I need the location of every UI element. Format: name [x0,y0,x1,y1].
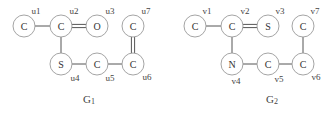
double-bond-u2-u3 [72,24,86,27]
node-v6: Cv6 [292,53,321,82]
node-u3: Ou3 [86,6,115,37]
node-u1: Cu1 [13,6,41,37]
double-bond-u6-u7 [131,37,134,53]
vertex-label: u6 [143,72,153,82]
vertex-label: v4 [232,76,242,86]
node-u2: Cu2 [50,6,79,37]
atom-symbol: C [265,59,272,70]
graph-title-G2: G2 [266,93,278,106]
node-u7: Cu7 [122,6,151,37]
atom-symbol: C [130,59,137,70]
atom-symbol: C [94,59,101,70]
vertex-label: u1 [32,6,41,16]
node-v5: Cv5 [257,53,284,84]
atom-symbol: C [192,21,199,32]
atom-symbol: C [130,21,137,32]
vertex-label: u5 [106,73,116,83]
vertex-label: v6 [312,72,322,82]
vertex-label: v3 [276,6,286,16]
double-bond-v2-v3 [243,24,257,27]
nodes-layer: Cu1Cu2Ou3Su4Cu5Cu6Cu7Cv1Cv2Sv3Nv4Cv5Cv6C… [13,6,321,86]
graph-title-subscript: 2 [274,97,278,106]
graph-title-letter: G [83,93,91,105]
vertex-label: u3 [106,6,116,16]
node-v4: Nv4 [221,53,243,86]
vertex-label: v5 [275,74,285,84]
node-v1: Cv1 [184,6,212,37]
node-v7: Cv7 [292,6,320,37]
vertex-label: v1 [203,6,212,16]
atom-symbol: S [265,21,271,32]
atom-symbol: C [300,59,307,70]
atom-symbol: C [300,21,307,32]
vertex-label: u7 [142,6,152,16]
node-v3: Sv3 [257,6,285,37]
graph-title-subscript: 1 [91,97,95,106]
vertex-label: v7 [311,6,321,16]
node-u5: Cu5 [86,53,115,83]
vertex-label: v2 [241,6,250,16]
molecular-graph-diagram: Cu1Cu2Ou3Su4Cu5Cu6Cu7Cv1Cv2Sv3Nv4Cv5Cv6C… [0,0,333,116]
atom-symbol: C [229,21,236,32]
atom-symbol: N [228,59,235,70]
graph-titles-layer: G1G2 [83,93,278,106]
graph-title-letter: G [266,93,274,105]
graph-title-G1: G1 [83,93,95,106]
node-u4: Su4 [50,53,80,83]
node-v2: Cv2 [221,6,250,37]
atom-symbol: C [21,21,28,32]
atom-symbol: S [58,59,64,70]
atom-symbol: C [58,21,65,32]
vertex-label: u4 [71,73,81,83]
node-u6: Cu6 [122,53,152,82]
atom-symbol: O [93,21,100,32]
vertex-label: u2 [70,6,79,16]
